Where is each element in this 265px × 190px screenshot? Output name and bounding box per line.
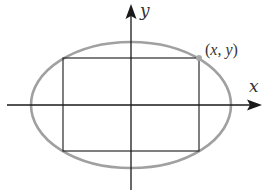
point-label-close-paren: ) <box>233 41 238 58</box>
point-marker <box>196 55 202 61</box>
x-axis-label: x <box>249 78 259 95</box>
point-label-y: y <box>225 41 232 58</box>
diagram-canvas <box>0 0 265 190</box>
point-label: (x, y) <box>205 42 238 58</box>
y-axis-label: y <box>140 2 150 19</box>
